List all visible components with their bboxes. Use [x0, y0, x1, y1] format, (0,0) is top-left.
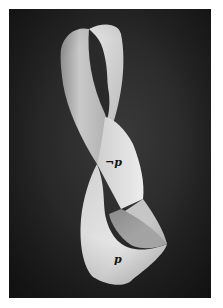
label-not-p: ¬p	[105, 157, 122, 168]
photo-frame: ¬p p	[9, 9, 211, 298]
mobius-strip-illustration	[9, 9, 211, 298]
label-p: p	[114, 254, 122, 265]
vignette	[9, 9, 211, 298]
